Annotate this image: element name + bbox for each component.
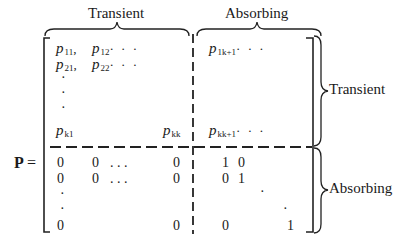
row-label-transient: Transient (329, 81, 385, 98)
entry-p12: p12· · · (92, 40, 139, 57)
column-label-absorbing: Absorbing (225, 5, 288, 22)
vdots-bl-2: · (60, 201, 65, 217)
entry-pk1: pk1 (56, 122, 74, 139)
left-bracket (44, 38, 50, 232)
hdots-r2: . . . (110, 171, 128, 187)
entry-pkk1: pkk+1· · · (209, 122, 266, 139)
id-r1c1: 1 (222, 155, 229, 171)
vdots-3: · (61, 100, 66, 116)
zero-r2c2: 0 (92, 171, 99, 187)
zero-r1ck: 0 (173, 155, 180, 171)
id-last-c1: 0 (222, 218, 229, 234)
vdots-1: · (61, 70, 66, 86)
entry-p21: p21, (56, 56, 79, 73)
zero-r2ck: 0 (173, 171, 180, 187)
brace-transient-columns (45, 22, 189, 36)
matrix-name: P = (14, 154, 36, 172)
zero-last-c1: 0 (57, 218, 64, 234)
vdots-bl-1: · (60, 186, 65, 202)
ddots-2: · (283, 201, 288, 217)
id-last-ck: 1 (287, 218, 294, 234)
zero-last-ck: 0 (173, 218, 180, 234)
zero-r2c1: 0 (57, 171, 64, 187)
ddots-1: · (260, 184, 265, 200)
id-r2c2: 1 (238, 171, 245, 187)
right-bracket (306, 38, 313, 232)
vdots-2: · (61, 85, 66, 101)
zero-r1c1: 0 (57, 155, 64, 171)
entry-p22: p22· · · (92, 56, 139, 73)
hdots-r1: . . . (110, 155, 128, 171)
zero-r1c2: 0 (92, 155, 99, 171)
entry-p1k1: p1k+1· · · (209, 40, 266, 57)
id-r1c2: 0 (238, 155, 245, 171)
entry-p11: p11, (56, 40, 78, 57)
row-label-absorbing: Absorbing (329, 180, 392, 197)
id-r2c1: 0 (222, 171, 229, 187)
entry-pkk: pkk (163, 122, 181, 139)
equals-sign: = (27, 154, 36, 171)
brace-absorbing-rows (314, 148, 328, 233)
brace-absorbing-columns (197, 22, 321, 36)
column-label-transient: Transient (88, 5, 144, 22)
matrix-symbol: P (14, 154, 23, 171)
brace-transient-rows (314, 36, 328, 146)
